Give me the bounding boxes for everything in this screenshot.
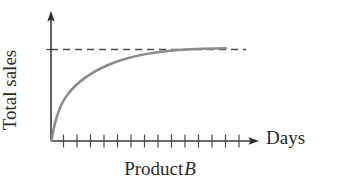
figure-container: Total sales Days ProductB	[0, 0, 345, 186]
x-axis-label: Days	[266, 128, 305, 147]
y-axis-label-text: Total sales	[0, 50, 19, 130]
figure-caption: ProductB	[0, 159, 320, 178]
total-sales-curve	[52, 48, 227, 140]
caption-variable-text: B	[183, 158, 196, 179]
caption-prefix-text: Product	[124, 158, 183, 179]
